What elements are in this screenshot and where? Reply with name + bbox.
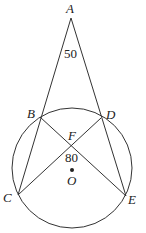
- center-dot-o: [70, 168, 74, 172]
- label-a: A: [65, 1, 74, 16]
- label-c: C: [3, 190, 12, 205]
- angle-f-value: 80: [65, 150, 78, 165]
- segment-ae: [71, 18, 126, 196]
- label-o: O: [67, 173, 77, 188]
- geometry-diagram: A B D C E F O 50 80: [0, 0, 146, 233]
- segment-cd: [18, 118, 101, 195]
- segment-be: [40, 117, 126, 196]
- angle-a-value: 50: [64, 46, 77, 61]
- label-f: F: [67, 128, 77, 143]
- segment-ac: [18, 18, 71, 195]
- label-e: E: [127, 192, 136, 207]
- label-d: D: [105, 107, 116, 122]
- label-b: B: [27, 106, 35, 121]
